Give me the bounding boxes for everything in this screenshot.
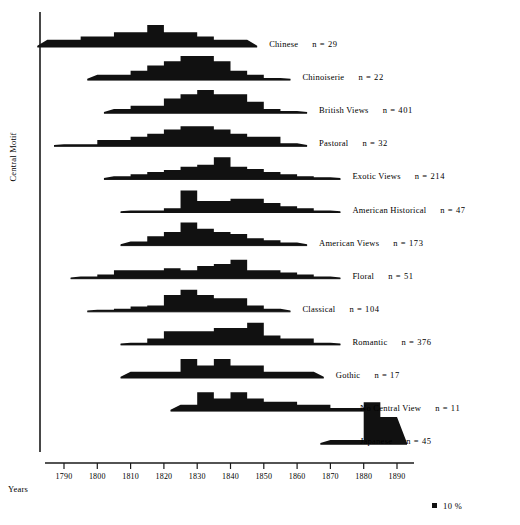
series-name: British Views [319, 105, 369, 115]
series-name: Classical [302, 304, 335, 314]
series-label: British Viewsn = 401 [319, 105, 413, 115]
series-histogram [121, 323, 341, 345]
series-histogram [104, 157, 340, 179]
series-name: No Central View [360, 403, 421, 413]
series-sample-size: n = 29 [312, 39, 337, 49]
series-histogram [104, 90, 307, 113]
series-label: Japanesen = 45 [360, 436, 432, 446]
series-sample-size: n = 173 [393, 238, 423, 248]
series-sample-size: n = 104 [349, 304, 379, 314]
series-sample-size: n = 17 [374, 370, 399, 380]
series-label: No Central Viewn = 11 [360, 403, 460, 413]
series-name: Japanese [360, 436, 392, 446]
series-label: Chinoiserien = 22 [302, 72, 383, 82]
series-sample-size: n = 22 [358, 72, 383, 82]
x-tick-label: 1810 [122, 472, 139, 481]
series-label: American Historicaln = 47 [352, 205, 465, 215]
series-sample-size: n = 45 [406, 436, 431, 446]
series-histogram [87, 290, 290, 312]
x-tick-label: 1820 [155, 472, 172, 481]
series-histogram [37, 25, 257, 47]
x-tick-label: 1790 [56, 472, 73, 481]
series-sample-size: n = 51 [388, 271, 413, 281]
black-square-swatch [432, 503, 437, 508]
x-tick-label: 1850 [255, 472, 272, 481]
series-name: Gothic [336, 370, 361, 380]
series-group [37, 25, 407, 444]
series-name: Exotic Views [352, 171, 400, 181]
series-name: Floral [352, 271, 374, 281]
series-name: American Views [319, 238, 379, 248]
x-tick-label: 1870 [322, 472, 339, 481]
series-sample-size: n = 47 [440, 205, 465, 215]
series-label: Classicaln = 104 [302, 304, 379, 314]
series-name: Chinoiserie [302, 72, 344, 82]
x-tick-label: 1840 [222, 472, 239, 481]
series-label: Exotic Viewsn = 214 [352, 171, 445, 181]
series-histogram [121, 190, 341, 212]
series-histogram [54, 126, 307, 146]
ridgeline-chart: Central Motif Years 17901800181018201830… [0, 0, 520, 525]
series-sample-size: n = 32 [362, 138, 387, 148]
x-tick-label: 1880 [355, 472, 372, 481]
series-histogram [171, 392, 374, 411]
series-histogram [87, 56, 290, 80]
legend: 10 % [432, 500, 462, 511]
x-tick-label: 1860 [289, 472, 306, 481]
x-tick-label: 1830 [189, 472, 206, 481]
series-label: Romanticn = 376 [352, 337, 431, 347]
series-name: Romantic [352, 337, 387, 347]
series-sample-size: n = 376 [401, 337, 431, 347]
series-sample-size: n = 214 [415, 171, 445, 181]
series-name: American Historical [352, 205, 426, 215]
series-label: American Viewsn = 173 [319, 238, 423, 248]
series-label: Floraln = 51 [352, 271, 413, 281]
series-histogram [121, 223, 308, 246]
series-sample-size: n = 11 [435, 403, 460, 413]
series-sample-size: n = 401 [383, 105, 413, 115]
series-histogram [71, 260, 341, 279]
series-label: Pastoraln = 32 [319, 138, 388, 148]
series-name: Chinese [269, 39, 298, 49]
series-name: Pastoral [319, 138, 348, 148]
series-label: Chinesen = 29 [269, 39, 338, 49]
plot-area [0, 0, 520, 525]
series-label: Gothicn = 17 [336, 370, 400, 380]
x-tick-label: 1800 [89, 472, 106, 481]
x-tick-label: 1890 [389, 472, 406, 481]
series-histogram [121, 359, 324, 378]
legend-label: 10 % [443, 501, 462, 511]
